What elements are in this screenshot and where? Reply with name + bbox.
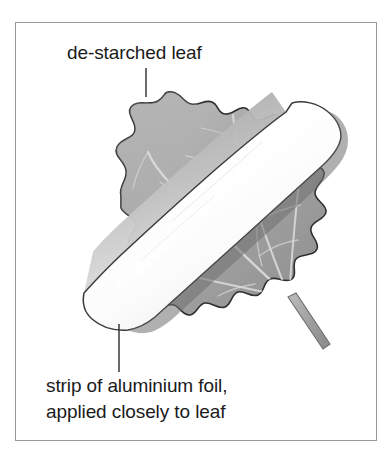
label-de-starched-leaf: de-starched leaf — [67, 40, 202, 66]
label-foil-strip-line2: applied closely to leaf — [46, 399, 225, 425]
figure-root: de-starched leaf strip of aluminium foil… — [0, 0, 390, 449]
leaf-stem — [288, 293, 330, 349]
label-foil-strip-line1: strip of aluminium foil, — [46, 373, 227, 399]
